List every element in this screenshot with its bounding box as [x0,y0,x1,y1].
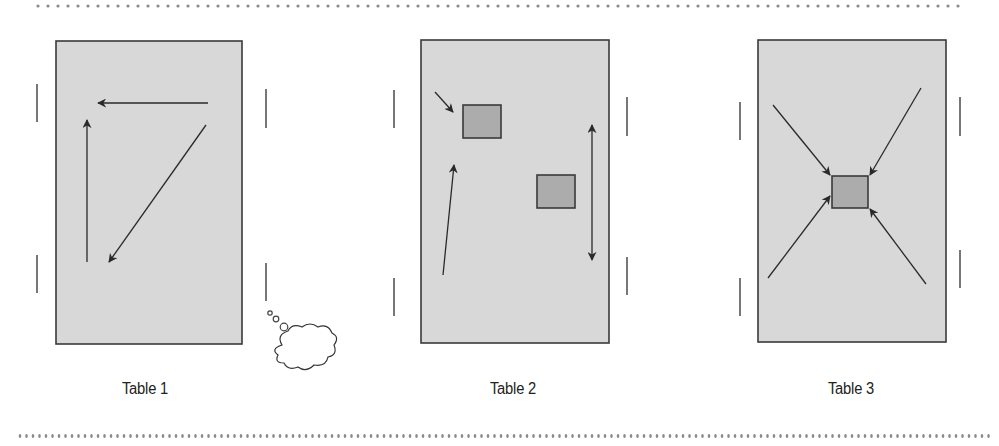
table-surface [56,41,242,344]
object-square [463,105,501,138]
table-surface [421,40,609,343]
table-3 [740,40,960,342]
thought-bubble-icon [268,311,337,370]
object-square [832,176,868,208]
table-1 [37,41,266,344]
object-square [537,175,575,208]
table-1-label: Table 1 [71,380,218,398]
bottom-dotted-separator [19,434,990,438]
table-3-label: Table 3 [777,380,924,398]
table-2 [394,40,627,343]
tables-layer [37,40,960,344]
top-dotted-separator [36,4,959,7]
table-2-label: Table 2 [439,380,586,398]
